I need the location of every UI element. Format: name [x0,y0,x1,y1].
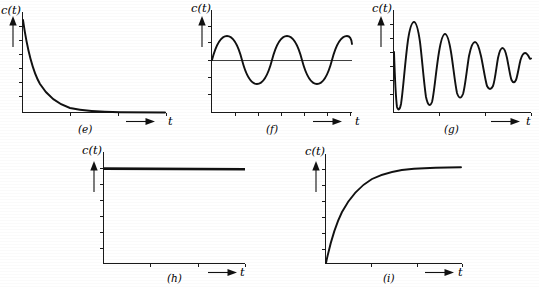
panel-h-y-arrow [90,161,97,192]
panel-g-caption: (g) [444,124,459,135]
panel-f-plot [180,0,360,140]
panel-i: c(t) t (i) [280,140,500,287]
panel-f-y-label: c(t) [191,3,211,15]
panel-g: c(t) t (g) [360,0,539,140]
panel-i-x-label: t [458,267,463,279]
panel-h-curve [104,169,245,170]
panel-f-y-arrow [198,16,205,47]
panel-e-plot [0,0,180,140]
panel-e-curve [23,20,165,113]
panel-h-y-ticks [100,168,104,248]
panel-f-curve [212,36,352,84]
panel-h-plot [80,140,280,287]
figure-root: c(t) t (e) [0,0,539,287]
panel-g-x-ticks [439,113,531,117]
panel-g-y-label: c(t) [372,3,392,15]
panel-g-plot [360,0,539,140]
panel-i-plot [280,140,500,287]
panel-e-y-arrow [9,16,16,47]
panel-e-caption: (e) [78,124,92,135]
panel-e-x-label: t [168,116,173,128]
panel-h-y-label: c(t) [82,145,102,157]
panel-h-x-label: t [240,267,245,279]
panel-e-x-arrow [126,118,155,125]
panel-i-x-arrow [425,269,454,276]
panel-e-y-label: c(t) [1,5,21,17]
panel-h-x-arrow [208,269,237,276]
panel-f-x-arrow [313,118,342,125]
panel-f: c(t) t (f) [180,0,360,140]
panel-i-y-label: c(t) [305,146,325,158]
panel-f-caption: (f) [266,124,278,135]
panel-f-x-ticks [235,113,350,117]
panel-g-x-arrow [491,118,520,125]
panel-i-y-arrow [312,161,319,192]
panel-g-x-label: t [526,116,531,128]
panel-e-y-ticks [19,26,23,96]
panel-h-x-ticks [150,264,245,268]
panel-g-curve [394,22,531,109]
panel-f-y-ticks [208,26,212,94]
panel-i-caption: (i) [383,273,395,284]
panel-h-caption: (h) [167,273,182,284]
panel-e: c(t) t (e) [0,0,180,140]
panel-g-y-arrow [377,16,384,47]
panel-f-x-label: t [355,116,360,128]
panel-g-y-ticks [390,24,394,94]
panel-h: c(t) t (h) [80,140,280,287]
panel-i-curve [326,167,461,263]
panel-i-y-ticks [322,169,326,249]
panel-i-x-ticks [371,264,462,268]
